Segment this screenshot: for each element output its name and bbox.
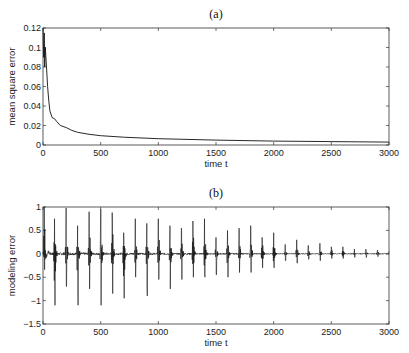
y-tick-label: 0.12 bbox=[23, 23, 41, 33]
x-tick-label: 2000 bbox=[264, 327, 284, 337]
y-tick-label: 0.02 bbox=[23, 121, 41, 131]
y-tick-label: 0.5 bbox=[28, 225, 41, 235]
x-tick-label: 3000 bbox=[379, 148, 399, 158]
x-tick-label: 3000 bbox=[379, 327, 399, 337]
y-tick-label: −0.5 bbox=[23, 272, 41, 282]
modeling-error-line bbox=[43, 207, 389, 305]
subplot-a-ticks: 05001000150020002500300000.020.040.060.0… bbox=[23, 23, 399, 158]
x-tick-label: 1500 bbox=[206, 327, 226, 337]
y-tick-label: 0.08 bbox=[23, 62, 41, 72]
x-tick-label: 2500 bbox=[321, 148, 341, 158]
figure: (a) 05001000150020002500300000.020.040.0… bbox=[0, 0, 409, 353]
x-tick-label: 1000 bbox=[148, 327, 168, 337]
x-tick-label: 2500 bbox=[321, 327, 341, 337]
subplot-b-title: (b) bbox=[209, 186, 223, 200]
y-tick-label: −1 bbox=[31, 296, 41, 306]
y-tick-label: 0.04 bbox=[23, 101, 41, 111]
subplot-a-ylabel: mean square error bbox=[6, 47, 17, 125]
subplot-b-xlabel: time t bbox=[204, 337, 228, 348]
subplot-a-title: (a) bbox=[209, 7, 222, 21]
x-tick-label: 2000 bbox=[264, 148, 284, 158]
x-tick-label: 500 bbox=[93, 327, 108, 337]
x-tick-label: 0 bbox=[40, 327, 45, 337]
y-tick-label: 0 bbox=[36, 140, 41, 150]
y-tick-label: 0.06 bbox=[23, 82, 41, 92]
y-tick-label: 1 bbox=[36, 202, 41, 212]
y-tick-label: −1.5 bbox=[23, 319, 41, 329]
x-tick-label: 1500 bbox=[206, 148, 226, 158]
x-tick-label: 0 bbox=[40, 148, 45, 158]
subplot-b: (b) 050010001500200025003000−1.5−1−0.500… bbox=[6, 186, 399, 348]
x-tick-label: 1000 bbox=[148, 148, 168, 158]
subplot-a-xlabel: time t bbox=[204, 158, 228, 169]
y-tick-label: 0 bbox=[36, 249, 41, 259]
subplot-a-axes bbox=[43, 28, 389, 145]
subplot-b-ylabel: modeling error bbox=[6, 235, 17, 296]
x-tick-label: 500 bbox=[93, 148, 108, 158]
mse-line bbox=[43, 28, 389, 142]
y-tick-label: 0.1 bbox=[28, 43, 41, 53]
subplot-b-ticks: 050010001500200025003000−1.5−1−0.500.51 bbox=[23, 202, 399, 337]
subplot-a: (a) 05001000150020002500300000.020.040.0… bbox=[6, 7, 399, 169]
